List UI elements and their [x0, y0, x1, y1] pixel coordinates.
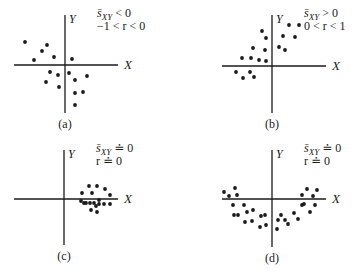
data-point [52, 55, 56, 59]
panel-b: XYs̄XY > 00 < r < 1(b) [222, 6, 346, 131]
data-point [275, 227, 279, 231]
data-point [40, 49, 44, 53]
x-axis-label: X [331, 58, 341, 73]
data-point [97, 198, 101, 202]
data-point [241, 76, 245, 80]
panel-caption: (d) [265, 251, 279, 265]
data-point [249, 56, 253, 60]
data-point [235, 193, 239, 197]
data-point [48, 70, 52, 74]
data-point [84, 201, 88, 205]
x-axis-label: X [123, 191, 133, 206]
x-axis-label: X [123, 57, 133, 72]
data-point [56, 73, 60, 77]
data-point [108, 193, 112, 197]
data-point [89, 208, 93, 212]
data-point [67, 71, 71, 75]
panel-a: XYs̄XY < 0−1 < r < 0(a) [14, 6, 145, 131]
data-point [234, 70, 238, 74]
data-point [73, 103, 77, 107]
data-point [283, 218, 287, 222]
data-point [231, 203, 235, 207]
data-point [264, 36, 268, 40]
data-point [263, 213, 267, 217]
data-point [250, 219, 254, 223]
data-point [279, 213, 283, 217]
panel-caption: (a) [58, 117, 71, 131]
data-point [57, 85, 61, 89]
data-point [315, 188, 319, 192]
y-axis-label: Y [68, 147, 76, 161]
data-point [45, 43, 49, 47]
data-point [102, 202, 106, 206]
correlation-stat: r ≐ 0 [304, 154, 330, 168]
panel-caption: (b) [265, 117, 279, 131]
data-point [258, 225, 262, 229]
data-point [23, 40, 27, 44]
data-point [95, 210, 99, 214]
data-point [283, 48, 287, 52]
data-point [70, 57, 74, 61]
data-point [260, 29, 264, 33]
data-point [251, 208, 255, 212]
data-point [311, 194, 315, 198]
data-point [286, 222, 290, 226]
data-point [264, 59, 268, 63]
data-point [251, 46, 255, 50]
data-point [302, 202, 306, 206]
data-point [88, 201, 92, 205]
data-point [233, 186, 237, 190]
data-point [300, 193, 304, 197]
data-point [259, 214, 263, 218]
data-points [234, 23, 301, 80]
data-point [264, 223, 268, 227]
panel-c: XYs̄XY ≐ 0r ≐ 0(c) [14, 141, 133, 263]
data-point [73, 91, 77, 95]
y-axis-label: Y [276, 12, 284, 26]
data-point [242, 203, 246, 207]
data-point [297, 23, 301, 27]
data-point [292, 211, 296, 215]
data-point [243, 220, 247, 224]
data-point [44, 80, 48, 84]
y-axis-label: Y [276, 147, 284, 161]
data-point [87, 184, 91, 188]
data-point [281, 34, 285, 38]
data-point [313, 203, 317, 207]
data-point [296, 217, 300, 221]
data-point [305, 187, 309, 191]
data-point [103, 187, 107, 191]
data-point [263, 48, 267, 52]
data-point [257, 58, 261, 62]
data-point [108, 202, 112, 206]
data-point [227, 194, 231, 198]
data-point [81, 90, 85, 94]
data-point [80, 191, 84, 195]
data-point [95, 184, 99, 188]
correlation-stat: 0 < r < 1 [304, 19, 346, 33]
data-point [32, 58, 36, 62]
data-point [248, 70, 252, 74]
data-point [94, 204, 98, 208]
data-point [222, 190, 226, 194]
data-points [222, 186, 319, 231]
data-point [73, 78, 77, 82]
data-point [287, 23, 291, 27]
data-points [23, 40, 89, 107]
x-axis-label: X [331, 191, 341, 206]
correlation-stat: −1 < r < 0 [97, 19, 145, 33]
data-point [240, 56, 244, 60]
data-point [308, 210, 312, 214]
data-point [232, 213, 236, 217]
scatter-correlation-figure: XYs̄XY < 0−1 < r < 0(a)XYs̄XY > 00 < r <… [0, 0, 362, 276]
data-point [90, 191, 94, 195]
panel-d: XYs̄XY ≐ 0r ≐ 0(d) [222, 141, 341, 265]
data-point [245, 210, 249, 214]
data-point [85, 74, 89, 78]
y-axis-label: Y [69, 12, 77, 26]
data-point [236, 213, 240, 217]
data-point [293, 35, 297, 39]
correlation-stat: r ≐ 0 [96, 154, 122, 168]
data-point [276, 218, 280, 222]
data-point [252, 75, 256, 79]
